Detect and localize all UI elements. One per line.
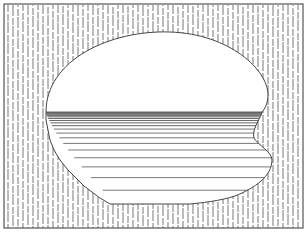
diagram-figure: [0, 0, 308, 237]
drawing-canvas: [0, 0, 308, 237]
